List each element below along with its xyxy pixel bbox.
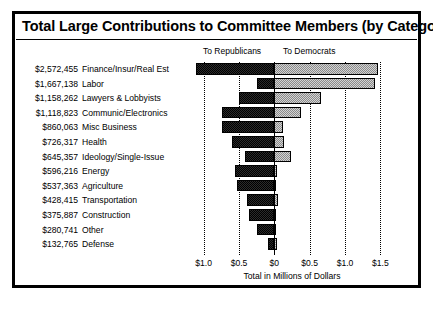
bar-segment-democrats — [274, 63, 377, 75]
bar-segment-republicans — [235, 165, 275, 177]
category-name: Construction — [82, 210, 130, 220]
bar-row — [186, 209, 398, 221]
category-amount: $375,887 — [42, 210, 78, 220]
category-amount: $2,572,455 — [35, 64, 78, 74]
bar-segment-republicans — [239, 92, 274, 104]
bar-row — [186, 224, 398, 236]
bar-segment-democrats — [274, 107, 301, 119]
bar-segment-republicans — [249, 209, 274, 221]
bar-segment-republicans — [245, 151, 274, 163]
category-amount: $726,317 — [42, 137, 78, 147]
category-name: Energy — [82, 166, 109, 176]
bar-row — [186, 194, 398, 206]
category-row: $1,158,262Lawyers & Lobbyists — [20, 93, 186, 104]
bar-segment-republicans — [247, 194, 274, 206]
plot-area — [186, 62, 398, 255]
bar-segment-democrats — [274, 92, 321, 104]
bar-row — [186, 92, 398, 104]
category-row: $596,216Energy — [20, 166, 186, 177]
bar-segment-democrats — [274, 151, 291, 163]
category-label-column: $2,572,455Finance/Insur/Real Est$1,667,1… — [20, 62, 186, 255]
category-row: $1,118,823Communic/Electronics — [20, 108, 186, 119]
category-amount: $428,415 — [42, 195, 78, 205]
category-row: $1,667,138Labor — [20, 79, 186, 90]
bar-segment-republicans — [257, 224, 275, 236]
bar-row — [186, 180, 398, 192]
bar-segment-democrats — [274, 194, 278, 206]
x-axis-title: Total in Millions of Dollars — [186, 271, 398, 281]
bar-segment-republicans — [222, 121, 274, 133]
x-tick-label: $1.0 — [195, 258, 212, 268]
category-name: Finance/Insur/Real Est — [82, 64, 169, 74]
bar-segment-democrats — [274, 180, 276, 192]
legend-label-democrats: To Democrats — [283, 46, 335, 56]
bar-segment-democrats — [274, 209, 276, 221]
bar-rows — [186, 62, 398, 255]
x-tick-label: $0.5 — [231, 258, 248, 268]
category-name: Health — [82, 137, 107, 147]
category-name: Transportation — [82, 195, 137, 205]
bar-row — [186, 136, 398, 148]
chart-page: Total Large Contributions to Committee M… — [0, 0, 433, 321]
x-tick-label: $1.5 — [372, 258, 389, 268]
category-amount: $860,063 — [42, 122, 78, 132]
category-amount: $645,357 — [42, 152, 78, 162]
category-row: $132,765Defense — [20, 239, 186, 250]
category-row: $428,415Transportation — [20, 195, 186, 206]
bar-row — [186, 107, 398, 119]
category-amount: $1,118,823 — [36, 108, 78, 118]
category-amount: $280,741 — [42, 225, 78, 235]
bar-segment-republicans — [222, 107, 274, 119]
bar-segment-democrats — [274, 238, 277, 250]
bar-row — [186, 165, 398, 177]
bar-segment-democrats — [274, 136, 283, 148]
category-row: $375,887Construction — [20, 210, 186, 221]
bar-row — [186, 151, 398, 163]
category-amount: $1,158,262 — [35, 93, 78, 103]
bar-row — [186, 238, 398, 250]
category-name: Lawyers & Lobbyists — [82, 93, 161, 103]
bar-row — [186, 63, 398, 75]
category-amount: $537,363 — [42, 181, 78, 191]
category-name: Ideology/Single-Issue — [82, 152, 164, 162]
bar-segment-republicans — [196, 63, 274, 75]
legend-label-republicans: To Republicans — [203, 46, 261, 56]
title-divider — [16, 39, 417, 40]
bar-segment-republicans — [257, 78, 274, 90]
category-amount: $1,667,138 — [35, 79, 78, 89]
category-row: $280,741Other — [20, 225, 186, 236]
x-tick-label: $0 — [270, 258, 280, 268]
category-amount: $596,216 — [42, 166, 78, 176]
category-row: $645,357Ideology/Single-Issue — [20, 152, 186, 163]
category-name: Agriculture — [82, 181, 123, 191]
bar-segment-republicans — [232, 136, 274, 148]
bar-segment-democrats — [274, 224, 276, 236]
category-row: $860,063Misc Business — [20, 122, 186, 133]
category-name: Labor — [82, 79, 104, 89]
category-row: $2,572,455Finance/Insur/Real Est — [20, 64, 186, 75]
category-name: Misc Business — [82, 122, 137, 132]
x-axis-tick-labels: $1.0$0.5$0$0.5$1.0$1.5 — [150, 258, 430, 270]
x-tick-label: $1.0 — [337, 258, 354, 268]
bar-segment-democrats — [274, 165, 277, 177]
x-tick-label: $0.5 — [301, 258, 318, 268]
category-name: Other — [82, 225, 104, 235]
category-name: Defense — [82, 239, 114, 249]
bar-segment-republicans — [237, 180, 274, 192]
bar-segment-democrats — [274, 121, 282, 133]
chart-title: Total Large Contributions to Committee M… — [22, 18, 412, 34]
category-name: Communic/Electronics — [82, 108, 167, 118]
bar-row — [186, 78, 398, 90]
category-row: $537,363Agriculture — [20, 181, 186, 192]
category-amount: $132,765 — [42, 239, 78, 249]
bar-row — [186, 121, 398, 133]
bar-segment-democrats — [274, 78, 375, 90]
category-row: $726,317Health — [20, 137, 186, 148]
